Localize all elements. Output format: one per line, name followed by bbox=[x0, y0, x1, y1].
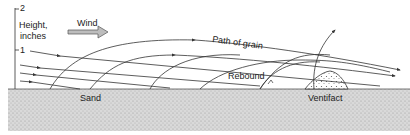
ventifact-rock bbox=[305, 71, 348, 89]
axis-tick-1: 1 bbox=[20, 45, 25, 55]
wind-label: Wind bbox=[77, 18, 98, 28]
rebound-label: Rebound bbox=[228, 71, 265, 81]
sand-ground bbox=[8, 89, 410, 131]
saltation-diagram: 2 Height, inches 1 Wind Path of grain Re… bbox=[0, 0, 410, 135]
sand-label: Sand bbox=[80, 93, 101, 103]
axis-label-units: inches bbox=[20, 31, 46, 41]
ventifact-label: Ventifact bbox=[308, 93, 343, 103]
axis-tick-2: 2 bbox=[20, 3, 25, 13]
diagram-canvas bbox=[0, 0, 410, 135]
axis-label-height: Height, bbox=[19, 20, 48, 30]
